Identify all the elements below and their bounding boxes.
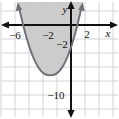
x-tick-label-pos2: 2 — [84, 28, 90, 40]
graph-figure: −6 −2 2 −2 −10 y x — [0, 0, 119, 119]
x-tick-label-neg2: −2 — [42, 29, 54, 41]
coordinate-plane-svg: −6 −2 2 −2 −10 y x — [0, 0, 119, 119]
y-axis-name-label: y — [62, 3, 68, 15]
x-axis-name-label: x — [105, 27, 111, 39]
y-tick-label-neg2: −2 — [56, 38, 68, 50]
y-tick-label-neg10: −10 — [47, 89, 65, 101]
x-tick-label-neg6: −6 — [9, 29, 21, 41]
